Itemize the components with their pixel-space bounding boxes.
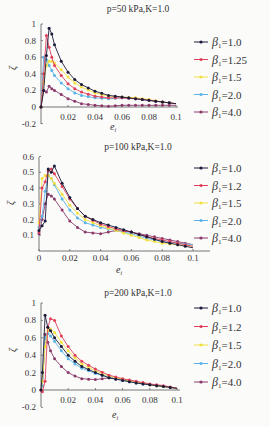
data-point [45,54,48,57]
legend-item: β1=4.0 [194,105,242,120]
figure: p=50 kPa,K=1.0 0.020.040.060.080.1-0.200… [0,0,270,427]
x-tick-label: 0.1 [171,395,182,405]
data-point [101,374,104,377]
data-point [73,100,76,103]
legend-label: β1=2.0 [211,357,242,372]
data-point [67,82,70,85]
legend-label: β1=2.0 [211,214,242,229]
y-tick-label: 1 [32,298,37,308]
data-point [94,371,97,374]
data-point [67,345,70,348]
x-tick-label: 0.08 [141,112,157,122]
data-point [50,87,53,90]
data-point [148,104,151,107]
legend-marker-icon [199,58,202,61]
x-tick-label: 0.02 [62,253,78,263]
legend-label: β1=1.0 [211,161,242,176]
data-point [121,96,124,99]
data-point [84,218,87,221]
legend-item: β1=2.0 [194,214,242,229]
legend-marker-icon [199,40,202,43]
data-point [80,102,83,105]
data-point [53,357,56,360]
y-axis-label: ζ [5,200,17,205]
y-tick-label: 1 [32,19,37,29]
data-point [76,212,79,215]
data-point [121,379,124,382]
data-point [67,71,70,74]
data-point [100,96,103,99]
data-point [94,368,97,371]
data-point [61,209,64,212]
y-tick-label: 0 [32,102,37,112]
data-point [40,389,43,392]
data-point [48,46,51,49]
y-tick-label: 0.4 [25,350,37,360]
data-point [53,336,56,339]
y-tick-label: 0.4 [25,69,37,79]
y-tick-label: 0.3 [23,199,35,209]
data-point [73,87,76,90]
data-point [41,177,44,180]
data-point [60,335,63,338]
legend-item: β1=1.2 [194,320,241,335]
data-point [138,233,141,236]
data-point [87,86,90,89]
data-point [45,91,48,94]
data-point [61,182,64,185]
data-point [155,384,158,387]
data-point [76,216,79,219]
legend-item: β1=1.25 [194,53,247,68]
legend-marker-icon [199,236,202,239]
data-point [94,378,97,381]
data-point [107,231,110,234]
panel-p50: p=50 kPa,K=1.0 0.020.040.060.080.1-0.200… [7,4,247,133]
data-point [74,360,77,363]
data-point [161,240,164,243]
legend-item: β1=1.5 [194,70,242,85]
data-point [80,91,83,94]
data-point [50,32,53,35]
plot-area [40,27,177,109]
data-point [74,354,77,357]
data-point [101,371,104,374]
data-point [87,378,90,381]
data-point [130,234,133,237]
series-line [39,169,193,246]
data-point [161,104,164,107]
y-tick-label: 0.5 [23,167,35,177]
data-point [87,103,90,106]
data-point [142,382,145,385]
data-point [60,74,63,77]
data-point [114,95,117,98]
data-point [94,95,97,98]
data-point [80,94,83,97]
data-point [60,93,63,96]
data-point [38,229,41,232]
panel-title: p=50 kPa,K=1.0 [107,4,170,14]
data-point [138,236,141,239]
legend-marker-icon [199,325,202,328]
data-point [168,101,171,104]
legend-item: β1=1.5 [194,338,242,353]
data-point [76,207,79,210]
data-point [134,104,137,107]
data-point [134,97,137,100]
x-tick-label: 0.08 [154,253,170,263]
data-point [87,93,90,96]
data-point [68,220,71,223]
legend-marker-icon [199,166,202,169]
data-point [73,81,76,84]
data-point [48,85,51,88]
series-line [41,319,177,392]
data-point [60,81,63,84]
data-point [107,94,110,97]
plot-area [38,164,194,247]
data-point [60,345,63,348]
data-point [107,224,110,227]
data-point [67,371,70,374]
data-point [41,187,44,190]
data-point [67,87,70,90]
data-point [61,193,64,196]
series-line [39,194,193,244]
